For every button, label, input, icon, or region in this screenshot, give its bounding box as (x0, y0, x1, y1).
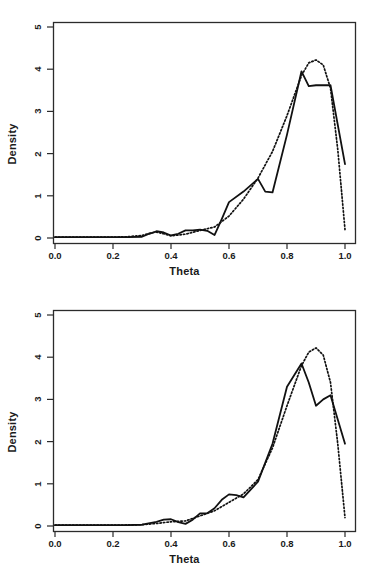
y-tick-label-4: 4 (32, 63, 43, 75)
y-tick-label-0: 0 (32, 232, 43, 244)
x-tick-label-0: 0.0 (48, 538, 61, 549)
series-line (55, 364, 345, 526)
x-axis-title-top: Theta (0, 265, 369, 277)
y-tick-label-1: 1 (32, 478, 43, 490)
x-axis-ticks-bottom (55, 532, 345, 538)
density-plot-panel-bottom: Density Theta 0.0 0.2 0.4 0.6 0.8 1.0 0 … (0, 288, 369, 576)
y-axis-ticks-bottom (47, 315, 54, 526)
x-axis-title-bottom: Theta (0, 553, 369, 565)
series-line (55, 348, 345, 525)
y-tick-label-0: 0 (32, 520, 43, 532)
plot-canvas-bottom (0, 288, 369, 576)
y-axis-ticks-top (47, 27, 54, 238)
y-tick-label-3: 3 (32, 393, 43, 405)
series-line (55, 71, 345, 237)
x-tick-label-1: 0.2 (106, 538, 119, 549)
x-tick-label-3: 0.6 (222, 250, 235, 261)
x-tick-label-2: 0.4 (164, 538, 177, 549)
x-tick-label-3: 0.6 (222, 538, 235, 549)
x-tick-label-4: 0.8 (280, 538, 293, 549)
x-axis-ticks-top (55, 244, 345, 250)
series-empirical-density (55, 71, 345, 237)
series-empirical-density (55, 364, 345, 526)
y-tick-label-5: 5 (32, 309, 43, 321)
y-tick-label-5: 5 (32, 21, 43, 33)
y-tick-label-3: 3 (32, 105, 43, 117)
y-axis-title-bottom: Density (4, 288, 21, 576)
figure-container: Density Theta 0.0 0.2 0.4 0.6 0.8 1.0 0 … (0, 0, 369, 576)
plot-frame-top (54, 23, 356, 244)
y-axis-title-top: Density (4, 0, 21, 288)
y-tick-label-2: 2 (32, 436, 43, 448)
x-tick-label-0: 0.0 (48, 250, 61, 261)
y-tick-label-1: 1 (32, 190, 43, 202)
x-tick-label-1: 0.2 (106, 250, 119, 261)
x-tick-label-5: 1.0 (338, 250, 351, 261)
x-tick-label-4: 0.8 (280, 250, 293, 261)
density-plot-panel-top: Density Theta 0.0 0.2 0.4 0.6 0.8 1.0 0 … (0, 0, 369, 288)
series-fitted-density (55, 348, 345, 525)
plot-canvas-top (0, 0, 369, 288)
x-tick-label-2: 0.4 (164, 250, 177, 261)
x-tick-label-5: 1.0 (338, 538, 351, 549)
y-tick-label-4: 4 (32, 351, 43, 363)
plot-frame-bottom (54, 311, 356, 532)
y-axis-title-wrap-bottom: Density (4, 288, 21, 576)
y-axis-title-wrap-top: Density (4, 0, 21, 288)
y-tick-label-2: 2 (32, 148, 43, 160)
series-line (55, 60, 345, 237)
series-fitted-density (55, 60, 345, 237)
